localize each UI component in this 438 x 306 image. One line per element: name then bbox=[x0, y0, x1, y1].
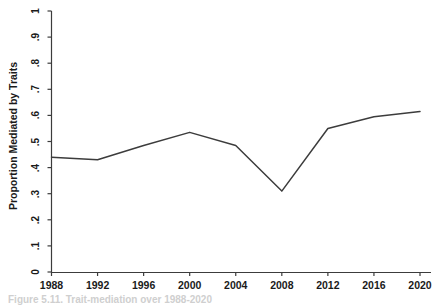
x-tick-label: 2020 bbox=[397, 278, 438, 292]
y-tick-label: .7 bbox=[29, 78, 41, 100]
data-series-line bbox=[52, 111, 421, 191]
x-tick-label: 1996 bbox=[121, 278, 167, 292]
y-tick-label: .9 bbox=[29, 26, 41, 48]
x-tick-label: 2012 bbox=[305, 278, 351, 292]
x-tick-label: 2000 bbox=[167, 278, 213, 292]
x-tick-label: 1992 bbox=[75, 278, 121, 292]
y-tick-label: .6 bbox=[29, 104, 41, 126]
x-tick-label: 2008 bbox=[259, 278, 305, 292]
x-tick-label: 2016 bbox=[351, 278, 397, 292]
chart-figure: Proportion Mediated by Traits 0.1.2.3.4.… bbox=[0, 0, 438, 306]
y-tick-label: .5 bbox=[29, 131, 41, 153]
y-tick-label: .8 bbox=[29, 52, 41, 74]
x-tick-label: 2004 bbox=[213, 278, 259, 292]
y-tick-label: .1 bbox=[29, 235, 41, 257]
y-tick-label: 1 bbox=[29, 0, 41, 22]
x-tick-label: 1988 bbox=[29, 278, 75, 292]
figure-caption: Figure 5.11. Trait-mediation over 1988-2… bbox=[8, 294, 438, 306]
y-tick-label: .3 bbox=[29, 183, 41, 205]
y-axis-title: Proportion Mediated by Traits bbox=[2, 0, 24, 272]
y-tick-label: .2 bbox=[29, 209, 41, 231]
y-tick-label: .4 bbox=[29, 157, 41, 179]
plot-area bbox=[0, 0, 438, 306]
